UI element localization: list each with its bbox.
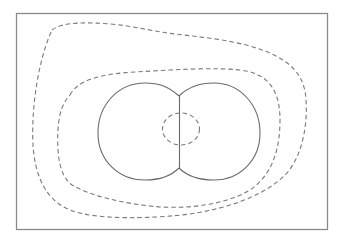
middle-dashed-contour xyxy=(58,69,280,208)
diagram-frame xyxy=(17,14,328,230)
left-lobe xyxy=(98,83,179,180)
inner-dashed-contour xyxy=(163,113,200,145)
right-lobe xyxy=(179,83,260,180)
contour-diagram xyxy=(0,0,341,242)
outer-dashed-contour xyxy=(33,23,307,218)
